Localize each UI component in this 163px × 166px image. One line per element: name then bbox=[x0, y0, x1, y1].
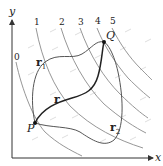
level-label-2: 2 bbox=[59, 18, 65, 27]
level-label-0: 0 bbox=[14, 53, 20, 62]
y-axis-label: y bbox=[9, 6, 15, 17]
x-axis-label: x bbox=[155, 152, 161, 163]
point-p-label: P bbox=[27, 123, 34, 134]
level-curve-0 bbox=[16, 62, 82, 156]
path-r2-label: r2 bbox=[110, 122, 120, 136]
point-q-label: Q bbox=[106, 30, 115, 41]
path-r1 bbox=[32, 42, 104, 123]
level-label-3: 3 bbox=[78, 18, 84, 27]
path-r-label: r bbox=[54, 94, 60, 105]
level-label-1: 1 bbox=[34, 18, 40, 27]
path-r1-label: r1 bbox=[36, 57, 46, 71]
level-curves bbox=[16, 28, 152, 156]
level-curve-4 bbox=[97, 28, 150, 98]
level-label-4: 4 bbox=[95, 17, 101, 26]
level-label-5: 5 bbox=[110, 17, 116, 26]
path-r bbox=[35, 42, 104, 123]
level-curve-1 bbox=[36, 28, 143, 148]
